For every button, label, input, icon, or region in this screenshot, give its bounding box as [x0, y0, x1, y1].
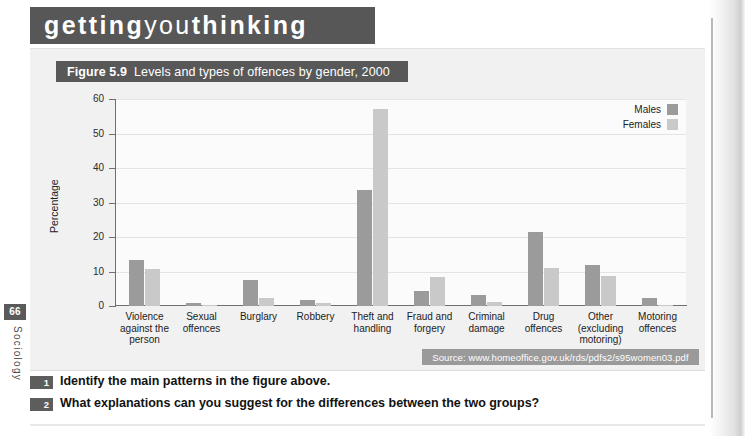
legend-item-males: Males — [623, 103, 678, 115]
activity-panel: Figure 5.9 Levels and types of offences … — [30, 48, 705, 371]
bar-males-5 — [414, 291, 429, 306]
legend-label-males: Males — [634, 104, 661, 115]
question-item: 1 Identify the main patterns in the figu… — [30, 374, 710, 389]
bar-males-8 — [585, 265, 600, 306]
bar-females-2 — [259, 298, 274, 306]
bar-males-1 — [186, 303, 201, 306]
source-text: Source: www.homeoffice.gov.uk/rds/pdfs2/… — [432, 352, 688, 363]
y-tick-label: 50 — [70, 128, 104, 139]
question-text: Identify the main patterns in the figure… — [60, 374, 330, 388]
book-page: 66 Sociology gettingyouthinking Figure 5… — [0, 0, 745, 436]
bar-females-0 — [145, 269, 160, 306]
y-tick — [109, 168, 115, 169]
bar-chart: 0102030405060 Percentage Violenceagainst… — [56, 91, 696, 321]
running-head: Sociology — [7, 326, 23, 426]
legend-swatch-males — [667, 104, 678, 115]
bar-females-8 — [601, 276, 616, 306]
y-tick-label: 10 — [70, 266, 104, 277]
legend-swatch-females — [667, 119, 678, 130]
bottom-rule — [30, 424, 705, 426]
bar-males-6 — [471, 295, 486, 306]
bar-females-1 — [202, 305, 217, 306]
y-tick-label: 60 — [70, 93, 104, 104]
page-edge-shading — [709, 0, 745, 436]
figure-label: Figure 5.9 — [67, 65, 127, 79]
bars-container — [116, 99, 686, 306]
question-number: 2 — [30, 398, 53, 411]
banner-text-thinking: thinking — [192, 13, 308, 38]
x-axis-label-9: Motoringoffences — [623, 311, 692, 334]
chart-legend: Males Females — [623, 103, 678, 133]
y-axis-title: Percentage — [48, 161, 64, 251]
banner-text-getting: getting — [44, 13, 144, 38]
bar-females-9 — [658, 305, 673, 306]
banner-text-you: you — [144, 13, 192, 38]
figure-caption-bar: Figure 5.9 Levels and types of offences … — [56, 61, 408, 82]
bar-females-3 — [316, 303, 331, 306]
y-tick — [109, 237, 115, 238]
question-number: 1 — [30, 376, 53, 389]
bar-females-5 — [430, 277, 445, 306]
bar-females-7 — [544, 268, 559, 306]
question-text: What explanations can you suggest for th… — [60, 396, 539, 410]
bar-females-6 — [487, 302, 502, 306]
y-tick-label: 40 — [70, 162, 104, 173]
y-tick — [109, 99, 115, 100]
legend-label-females: Females — [623, 119, 661, 130]
bar-females-4 — [373, 109, 388, 306]
panel-shadow — [30, 370, 705, 371]
getting-you-thinking-banner: gettingyouthinking — [30, 7, 375, 44]
y-tick — [109, 306, 115, 307]
source-bar: Source: www.homeoffice.gov.uk/rds/pdfs2/… — [422, 349, 699, 365]
y-tick — [109, 203, 115, 204]
question-item: 2 What explanations can you suggest for … — [30, 396, 710, 411]
y-tick — [109, 134, 115, 135]
bar-males-7 — [528, 232, 543, 306]
question-list: 1 Identify the main patterns in the figu… — [30, 374, 710, 418]
bar-males-9 — [642, 298, 657, 306]
y-tick-label: 0 — [70, 300, 104, 311]
bar-males-0 — [129, 260, 144, 306]
page-number: 66 — [4, 304, 26, 320]
bar-males-2 — [243, 280, 258, 306]
bar-males-4 — [357, 190, 372, 306]
y-tick-label: 20 — [70, 231, 104, 242]
page-edge-line — [711, 18, 713, 418]
figure-caption: Levels and types of offences by gender, … — [134, 65, 390, 79]
bar-males-3 — [300, 300, 315, 306]
y-tick-label: 30 — [70, 197, 104, 208]
y-tick — [109, 272, 115, 273]
legend-item-females: Females — [623, 118, 678, 130]
